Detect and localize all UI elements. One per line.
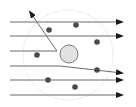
nucleus — [60, 45, 78, 63]
particle-dot — [72, 84, 78, 90]
particle-dot — [94, 39, 100, 45]
particle-dot — [94, 67, 100, 73]
particle-dot — [73, 22, 79, 28]
particle-dot — [45, 77, 51, 83]
trajectory-4-deflected — [10, 66, 122, 73]
particle-dot — [46, 27, 52, 33]
scattering-diagram — [0, 0, 136, 107]
particle-dot — [34, 52, 40, 58]
